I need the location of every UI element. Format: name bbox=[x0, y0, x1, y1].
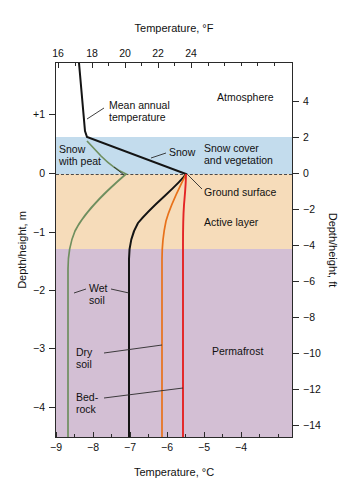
tick-right bbox=[293, 353, 299, 354]
tick-bottom-minor bbox=[148, 434, 149, 438]
right-axis-title: Depth/height, ft bbox=[327, 213, 339, 288]
tick-left bbox=[49, 407, 55, 408]
bottom-axis-title: Temperature, °C bbox=[134, 466, 214, 478]
tick-top-minor bbox=[257, 62, 258, 66]
tick-bottom-minor bbox=[278, 434, 279, 438]
tick-top-minor bbox=[141, 62, 142, 66]
tick-top bbox=[158, 62, 159, 68]
tick-bottom-minor bbox=[259, 434, 260, 438]
label-active-layer: Active layer bbox=[204, 216, 258, 228]
tick-label-left: −1 bbox=[33, 227, 45, 238]
tick-top-minor bbox=[208, 62, 209, 66]
label-permafrost: Permafrost bbox=[212, 345, 263, 357]
tick-top-minor bbox=[241, 62, 242, 66]
annotation-snow: Snow bbox=[169, 146, 195, 158]
annotation-snow-with-peat: Snow with peat bbox=[59, 143, 101, 168]
tick-label-bottom: −8 bbox=[87, 442, 99, 453]
tick-label-bottom: −7 bbox=[124, 442, 136, 453]
tick-label-left: −3 bbox=[33, 343, 45, 354]
tick-label-right: −4 bbox=[303, 240, 315, 251]
annotation-mean-annual-temperature: Mean annual temperature bbox=[109, 99, 170, 124]
tick-right bbox=[293, 137, 299, 138]
tick-label-top: 16 bbox=[52, 48, 64, 59]
tick-bottom bbox=[167, 432, 168, 438]
tick-right bbox=[293, 245, 299, 246]
tick-label-right: −2 bbox=[303, 204, 315, 215]
tick-bottom-minor bbox=[185, 434, 186, 438]
tick-top-minor bbox=[174, 62, 175, 66]
tick-bottom bbox=[130, 432, 131, 438]
label-ground-surface: Ground surface bbox=[204, 186, 276, 198]
tick-right bbox=[293, 209, 299, 210]
annotation-wet-soil: Wet soil bbox=[89, 282, 107, 307]
label-atmosphere: Atmosphere bbox=[217, 91, 274, 103]
tick-top-minor bbox=[75, 62, 76, 66]
top-axis-title: Temperature, °F bbox=[135, 22, 214, 34]
tick-label-left: −2 bbox=[33, 285, 45, 296]
tick-top bbox=[191, 62, 192, 68]
tick-label-top: 24 bbox=[185, 48, 197, 59]
tick-label-right: 4 bbox=[303, 96, 309, 107]
tick-label-left: −4 bbox=[33, 402, 45, 413]
left-axis-title: Depth/height, m bbox=[16, 211, 28, 289]
tick-label-bottom: −4 bbox=[235, 442, 247, 453]
tick-left bbox=[49, 348, 55, 349]
tick-label-right: −8 bbox=[303, 312, 315, 323]
tick-right bbox=[293, 425, 299, 426]
tick-left bbox=[49, 114, 55, 115]
annotation-bedrock: Bed- rock bbox=[76, 391, 98, 416]
tick-left bbox=[49, 232, 55, 233]
tick-top-minor bbox=[224, 62, 225, 66]
tick-label-right: −10 bbox=[303, 348, 321, 359]
tick-bottom bbox=[93, 432, 94, 438]
tick-bottom-minor bbox=[111, 434, 112, 438]
tick-bottom bbox=[56, 432, 57, 438]
tick-label-right: 2 bbox=[303, 132, 309, 143]
tick-top bbox=[125, 62, 126, 68]
tick-label-bottom: −6 bbox=[161, 442, 173, 453]
annotation-dry-soil: Dry soil bbox=[76, 346, 92, 371]
tick-label-bottom: −5 bbox=[198, 442, 210, 453]
tick-label-left: +1 bbox=[33, 109, 45, 120]
tick-right bbox=[293, 317, 299, 318]
tick-label-bottom: −9 bbox=[50, 442, 62, 453]
label-snow-cover: Snow cover and vegetation bbox=[204, 142, 273, 167]
tick-label-top: 22 bbox=[152, 48, 164, 59]
tick-bottom bbox=[204, 432, 205, 438]
tick-right bbox=[293, 173, 299, 174]
tick-top-minor bbox=[274, 62, 275, 66]
tick-label-right: 0 bbox=[303, 168, 309, 179]
tick-bottom-minor bbox=[74, 434, 75, 438]
tick-top bbox=[92, 62, 93, 68]
tick-bottom bbox=[241, 432, 242, 438]
leader-lines bbox=[56, 63, 293, 438]
tick-right bbox=[293, 389, 299, 390]
tick-left bbox=[49, 173, 55, 174]
tick-label-left: 0 bbox=[39, 168, 45, 179]
tick-right bbox=[293, 281, 299, 282]
tick-label-right: −14 bbox=[303, 420, 321, 431]
tick-top bbox=[58, 62, 59, 68]
tick-label-top: 20 bbox=[119, 48, 131, 59]
tick-bottom-minor bbox=[222, 434, 223, 438]
tick-label-top: 18 bbox=[86, 48, 98, 59]
plot-area: Mean annual temperature Snow Snow with p… bbox=[55, 62, 293, 438]
tick-top-minor bbox=[108, 62, 109, 66]
tick-right bbox=[293, 101, 299, 102]
permafrost-temperature-profile-figure: Mean annual temperature Snow Snow with p… bbox=[0, 0, 348, 501]
tick-label-right: −12 bbox=[303, 384, 321, 395]
tick-label-right: −6 bbox=[303, 276, 315, 287]
tick-left bbox=[49, 290, 55, 291]
